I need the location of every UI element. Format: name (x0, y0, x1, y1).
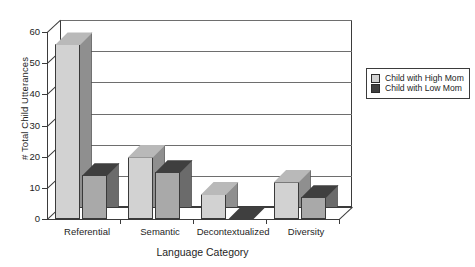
x-axis-title-text: Language Category (156, 246, 248, 258)
x-category-label: Diversity (288, 226, 324, 237)
legend-item: Child with High Mom (371, 74, 464, 83)
bar-low-mom (155, 160, 193, 219)
x-tick (339, 219, 340, 224)
y-tick-label: 50 (29, 58, 40, 68)
bar-front-face (274, 182, 299, 219)
legend-item: Child with Low Mom (371, 84, 464, 93)
y-tick (42, 219, 47, 220)
x-category-label: Semantic (140, 226, 180, 237)
y-tick (42, 157, 47, 158)
y-tick-label: 20 (29, 152, 40, 162)
bar-chart: # Total Child Utterances 0102030405060 R… (0, 0, 475, 267)
y-tick (42, 126, 47, 127)
y-axis-line (47, 32, 48, 219)
chart-legend: Child with High Mom Child with Low Mom (366, 68, 470, 99)
floor-right-edge (339, 207, 353, 220)
x-category-label: Referential (64, 226, 110, 237)
x-category-label: Decontextualized (197, 226, 270, 237)
bar-front-face (55, 44, 80, 219)
gridline (60, 82, 352, 83)
gridline (60, 114, 352, 115)
y-axis-title: # Total Child Utterances (19, 29, 30, 189)
bar-front-face (128, 157, 153, 219)
y-tick-label: 60 (29, 27, 40, 37)
gridline (60, 145, 352, 146)
bar-low-mom (228, 207, 266, 219)
x-tick (120, 219, 121, 224)
y-tick-label: 40 (29, 90, 40, 100)
bar-top-face (228, 207, 266, 220)
y-tick (42, 188, 47, 189)
legend-swatch-low (371, 84, 380, 93)
y-tick (42, 32, 47, 33)
y-tick-label: 30 (29, 121, 40, 131)
wall-corner-top (47, 20, 61, 33)
y-tick-label: 0 (35, 214, 40, 224)
plot-area: 0102030405060 ReferentialSemanticDeconte… (47, 20, 352, 219)
gridline (60, 51, 352, 52)
legend-label: Child with High Mom (385, 74, 464, 83)
bar-front-face (155, 172, 180, 219)
bar-low-mom (301, 185, 339, 219)
y-tick (42, 94, 47, 95)
x-tick (266, 219, 267, 224)
bar-front-face (82, 175, 107, 219)
legend-swatch-high (371, 74, 380, 83)
x-tick (193, 219, 194, 224)
bar-front-face (201, 194, 226, 219)
bar-low-mom (82, 163, 120, 219)
bar-front-face (301, 197, 326, 219)
x-axis-title: Language Category (0, 246, 475, 258)
gridline (60, 20, 352, 21)
y-tick (42, 63, 47, 64)
y-tick-label: 10 (29, 183, 40, 193)
legend-label: Child with Low Mom (385, 84, 462, 93)
